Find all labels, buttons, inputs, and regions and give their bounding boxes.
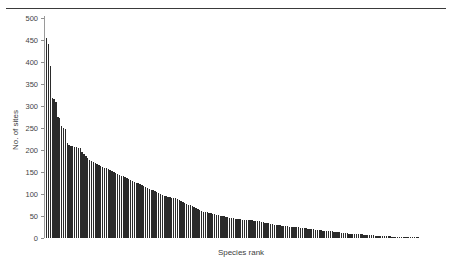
bar [233, 218, 234, 238]
bar [352, 234, 353, 238]
bar [52, 98, 53, 238]
bar [395, 237, 396, 238]
bar [369, 235, 370, 238]
bar [91, 161, 92, 238]
bar [378, 236, 379, 238]
bar [154, 191, 155, 238]
bar [365, 235, 366, 238]
bar [345, 233, 346, 238]
bar [167, 197, 168, 238]
bar [249, 220, 250, 238]
bar [356, 234, 357, 238]
bar [305, 228, 306, 238]
y-tick-label: 250 [25, 124, 38, 133]
bar [106, 168, 107, 238]
bar [192, 206, 193, 238]
bar [350, 234, 351, 238]
bar [216, 215, 217, 238]
bar [261, 222, 262, 238]
bar [341, 233, 342, 238]
bar [274, 225, 275, 238]
bar [76, 147, 77, 238]
bar [317, 230, 318, 238]
bar [276, 225, 277, 238]
bar [255, 221, 256, 238]
bar [169, 197, 170, 238]
bar [300, 228, 301, 238]
bar [421, 238, 422, 239]
bar [171, 198, 172, 238]
bar [179, 200, 180, 238]
bar [132, 181, 133, 238]
bar [164, 196, 165, 238]
bar [298, 227, 299, 238]
bar [143, 186, 144, 238]
y-tick-label: 200 [25, 146, 38, 155]
bar [373, 235, 374, 238]
bar [354, 234, 355, 238]
bar [380, 236, 381, 238]
bar [136, 183, 137, 238]
bar [270, 224, 271, 238]
bar [320, 230, 321, 238]
bar [225, 217, 226, 238]
bar [343, 233, 344, 238]
bar [304, 228, 305, 238]
bar [408, 237, 409, 238]
bar [281, 226, 282, 238]
bar [257, 221, 258, 238]
bar [89, 160, 90, 238]
bar [149, 189, 150, 238]
bar [326, 231, 327, 238]
bar [151, 190, 152, 238]
bar [330, 231, 331, 238]
y-tick-label: 300 [25, 102, 38, 111]
y-tick-label: 150 [25, 168, 38, 177]
bar [158, 193, 159, 238]
bar [59, 118, 60, 238]
bar [347, 233, 348, 238]
bar [121, 176, 122, 238]
bar [147, 188, 148, 238]
rank-abundance-chart: 050100150200250300350400450500 No. of si… [0, 0, 452, 262]
bar [87, 158, 88, 238]
bar [80, 148, 81, 238]
bar [348, 234, 349, 238]
plot-area: 050100150200250300350400450500 No. of si… [0, 0, 452, 262]
bar [328, 231, 329, 238]
bar [102, 167, 103, 238]
y-tick-label: 350 [25, 80, 38, 89]
bar [115, 173, 116, 238]
y-tick-label: 100 [25, 190, 38, 199]
bar [61, 126, 62, 238]
bar [333, 232, 334, 238]
bar [361, 234, 362, 238]
y-axis-title: No. of sites [11, 110, 20, 150]
bar [221, 216, 222, 238]
bar [199, 210, 200, 238]
bar [404, 237, 405, 238]
bar [427, 238, 428, 239]
bar [335, 232, 336, 238]
bar [358, 234, 359, 238]
bar [193, 207, 194, 238]
bar [162, 195, 163, 238]
bar [195, 208, 196, 238]
bar [156, 192, 157, 238]
bar [324, 231, 325, 238]
bar [55, 102, 56, 238]
bar [207, 212, 208, 238]
bar [139, 184, 140, 238]
bar [212, 214, 213, 238]
bar [315, 230, 316, 238]
bar [401, 237, 402, 238]
bar [83, 154, 84, 238]
bar [96, 164, 97, 238]
bar [65, 129, 66, 238]
bar [78, 148, 79, 238]
bar [235, 219, 236, 238]
bar [432, 238, 433, 239]
bar [434, 238, 435, 239]
bar [81, 152, 82, 238]
y-axis-ticks: 050100150200250300350400450500 [25, 14, 44, 243]
